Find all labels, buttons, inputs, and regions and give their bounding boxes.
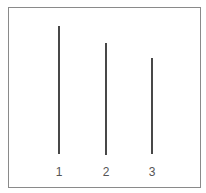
- line-diagram: 1 2 3: [0, 0, 206, 193]
- line-2-label: 2: [103, 165, 110, 179]
- line-3-label: 3: [149, 165, 156, 179]
- line-1-label: 1: [56, 165, 63, 179]
